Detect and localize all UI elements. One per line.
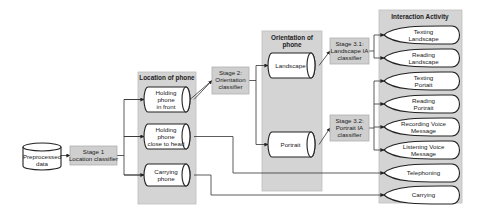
svg-text:in front: in front <box>157 103 176 110</box>
svg-text:Carrying: Carrying <box>412 191 436 198</box>
svg-text:Holding: Holding <box>156 126 178 133</box>
svg-text:Holding: Holding <box>156 89 178 96</box>
svg-text:close to head: close to head <box>148 140 185 147</box>
svg-text:Portait: Portait <box>415 81 433 88</box>
stage1-location-classifier: Stage 1 Location classifier <box>69 146 118 165</box>
arrow-front-to-stage2 <box>194 81 212 100</box>
svg-text:Carrying: Carrying <box>154 168 178 175</box>
activity-panel-title: Interaction Activity <box>391 13 449 21</box>
svg-text:Message: Message <box>411 150 437 157</box>
location-holding-phone-in-front: Holdingphonein front <box>144 87 190 112</box>
svg-text:Telephoning: Telephoning <box>407 169 441 176</box>
stage2-orientation-classifier: Stage 2: Orientation classifier <box>212 67 249 94</box>
svg-text:Orientation: Orientation <box>215 76 246 83</box>
svg-text:Stage 2:: Stage 2: <box>219 69 242 76</box>
location-panel-title: Location of phone <box>139 74 195 82</box>
flow-diagram: Location of phone Orientation of phone I… <box>0 0 482 215</box>
svg-text:Landscape: Landscape <box>408 35 439 42</box>
svg-text:Portrait: Portrait <box>281 141 301 148</box>
orientation-panel-title-2: phone <box>282 41 302 49</box>
svg-text:Landscape: Landscape <box>408 58 439 65</box>
svg-text:Stage 1: Stage 1 <box>83 148 105 155</box>
svg-text:data: data <box>36 160 49 167</box>
svg-text:Reading: Reading <box>412 51 436 58</box>
svg-text:Message: Message <box>411 127 437 134</box>
stage31-branches <box>369 35 374 58</box>
svg-text:Landscape: Landscape <box>275 62 306 69</box>
orientation-portrait: Portrait <box>268 132 315 157</box>
svg-text:classifier: classifier <box>218 83 242 90</box>
orientation-panel-title-1: Orientation of <box>271 34 314 41</box>
location-holding-phone-close-to-head: Holdingphoneclose to head <box>144 124 190 149</box>
svg-text:Portrait: Portrait <box>414 104 434 111</box>
orientation-landscape: Landscape <box>268 53 315 78</box>
svg-text:Texting: Texting <box>414 28 434 35</box>
svg-text:Landscape IA: Landscape IA <box>331 47 370 54</box>
svg-text:phone: phone <box>157 96 175 103</box>
svg-text:Texting: Texting <box>414 74 434 81</box>
svg-text:classifier: classifier <box>337 54 361 61</box>
svg-text:phone: phone <box>157 175 175 182</box>
svg-text:Listening Voice: Listening Voice <box>403 143 445 150</box>
svg-text:Location classifier: Location classifier <box>69 155 118 162</box>
svg-text:Recording Voice: Recording Voice <box>401 120 447 127</box>
svg-text:Stage 3.1:: Stage 3.1: <box>335 40 363 47</box>
svg-text:Reading: Reading <box>412 97 436 104</box>
svg-text:Portrait IA: Portrait IA <box>336 124 364 131</box>
svg-text:phone: phone <box>157 133 175 140</box>
location-carrying-phone: Carryingphone <box>144 164 190 186</box>
stage32-portrait-ia-classifier: Stage 3.2: Portrait IA classifier <box>330 115 369 141</box>
svg-text:Stage 3.2:: Stage 3.2: <box>335 117 363 124</box>
stage32-branches <box>369 81 374 150</box>
svg-text:classifier: classifier <box>337 131 361 138</box>
svg-text:Preprocessed: Preprocessed <box>23 153 62 160</box>
stage2-branches <box>249 66 256 145</box>
stage31-landscape-ia-classifier: Stage 3.1: Landscape IA classifier <box>330 38 369 64</box>
preprocessed-data-database: Preprocessed data <box>23 143 62 170</box>
